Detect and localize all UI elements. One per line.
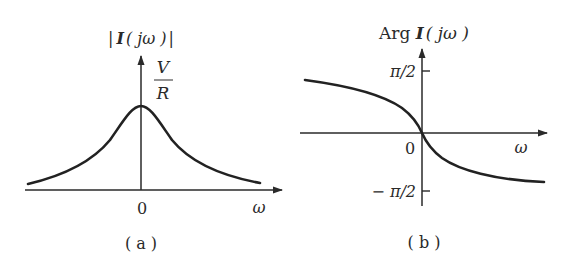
panel-a-magnitude-curve [28, 106, 260, 184]
panel-a-peak-numerator: V [157, 57, 171, 77]
panel-a-caption: ( a ) [125, 234, 157, 253]
panel-a-origin-label: 0 [137, 199, 147, 218]
panel-a-magnitude-plot: |I( jω )| V R 0 ω ( a ) [25, 29, 282, 253]
panel-b-caption: ( b ) [408, 233, 441, 252]
panel-a-x-label: ω [252, 198, 265, 217]
panel-b-upper-tick-label: π/2 [389, 62, 416, 81]
panel-b-x-label: ω [514, 138, 527, 157]
frequency-response-figure: |I( jω )| V R 0 ω ( a ) Arg I( jω ) π/2 … [0, 0, 566, 270]
panel-a-peak-denominator: R [156, 83, 170, 103]
panel-a-y-label: |I( jω )| [108, 29, 174, 48]
panel-b-y-label: Arg I( jω ) [378, 23, 469, 43]
panel-b-origin-label: 0 [405, 139, 415, 158]
panel-b-lower-tick-label: − π/2 [371, 182, 416, 201]
panel-b-phase-curve [305, 80, 544, 182]
panel-b-phase-plot: Arg I( jω ) π/2 − π/2 0 ω ( b ) [300, 23, 547, 252]
